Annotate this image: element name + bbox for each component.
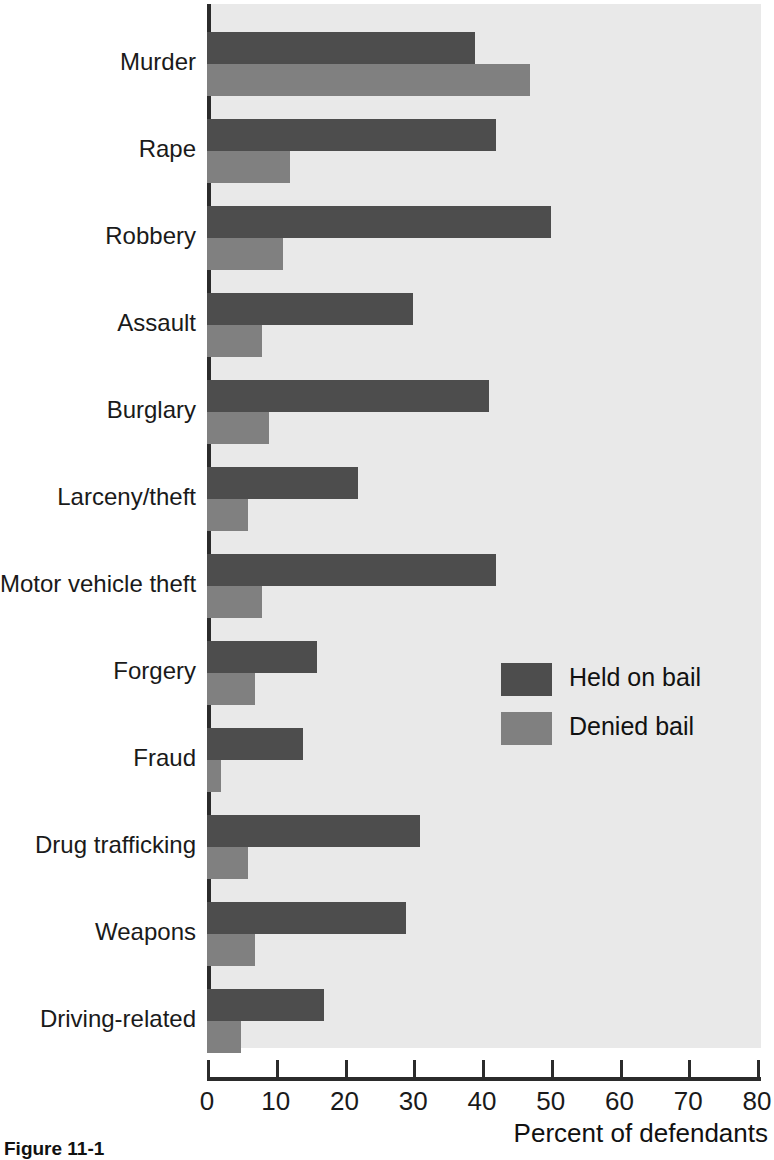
bar-held-on-bail [207, 32, 475, 64]
category-row: Rape [0, 91, 774, 178]
category-row: Motor vehicle theft [0, 526, 774, 613]
bar-held-on-bail [207, 641, 317, 673]
bar-denied-bail [207, 1021, 241, 1053]
category-label: Robbery [0, 222, 196, 250]
bar-held-on-bail [207, 815, 420, 847]
bar-held-on-bail [207, 989, 324, 1021]
x-axis-tick [207, 1060, 210, 1078]
bar-held-on-bail [207, 554, 496, 586]
x-axis-tick-label: 50 [521, 1086, 581, 1117]
category-label: Drug trafficking [0, 831, 196, 859]
x-axis-tick-label: 70 [658, 1086, 718, 1117]
category-label: Larceny/theft [0, 483, 196, 511]
category-label: Weapons [0, 918, 196, 946]
category-row: Assault [0, 265, 774, 352]
bar-held-on-bail [207, 293, 413, 325]
x-axis-tick [688, 1060, 691, 1078]
x-axis-tick [276, 1060, 279, 1078]
legend-swatch-held-on-bail [501, 663, 552, 696]
bar-held-on-bail [207, 206, 551, 238]
category-label: Motor vehicle theft [0, 570, 196, 598]
category-label: Rape [0, 135, 196, 163]
x-axis-tick [551, 1060, 554, 1078]
x-axis-tick [345, 1060, 348, 1078]
legend-label-held-on-bail: Held on bail [569, 663, 701, 692]
bar-held-on-bail [207, 380, 489, 412]
x-axis-tick-label: 30 [383, 1086, 443, 1117]
x-axis-tick-label: 10 [246, 1086, 306, 1117]
category-label: Driving-related [0, 1005, 196, 1033]
category-label: Assault [0, 309, 196, 337]
x-axis-tick-label: 60 [590, 1086, 650, 1117]
x-axis-tick [620, 1060, 623, 1078]
bar-held-on-bail [207, 467, 358, 499]
x-axis-tick-label: 0 [177, 1086, 237, 1117]
bar-held-on-bail [207, 119, 496, 151]
category-row: Larceny/theft [0, 439, 774, 526]
legend-swatch-denied-bail [501, 712, 552, 745]
bar-held-on-bail [207, 728, 303, 760]
category-label: Murder [0, 48, 196, 76]
category-row: Burglary [0, 352, 774, 439]
x-axis-tick-label: 20 [315, 1086, 375, 1117]
category-label: Fraud [0, 744, 196, 772]
x-axis-tick [757, 1060, 760, 1078]
figure-caption: Figure 11-1 [4, 1138, 104, 1160]
x-axis-tick [413, 1060, 416, 1078]
category-row: Drug trafficking [0, 787, 774, 874]
category-row: Driving-related [0, 961, 774, 1048]
x-axis-title: Percent of defendants [514, 1118, 768, 1149]
category-label: Burglary [0, 396, 196, 424]
category-row: Murder [0, 4, 774, 91]
category-row: Weapons [0, 874, 774, 961]
x-axis-tick-label: 80 [727, 1086, 774, 1117]
x-axis-tick-label: 40 [452, 1086, 512, 1117]
legend-label-denied-bail: Denied bail [569, 712, 694, 741]
category-row: Robbery [0, 178, 774, 265]
x-axis-tick [482, 1060, 485, 1078]
bar-held-on-bail [207, 902, 406, 934]
category-label: Forgery [0, 657, 196, 685]
